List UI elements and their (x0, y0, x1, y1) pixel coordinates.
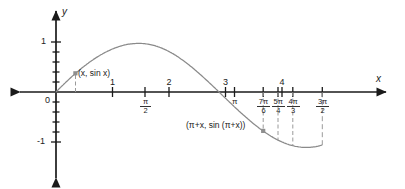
marker-lower-point (261, 129, 265, 133)
denominator-7pi-over-6: 6 (257, 107, 270, 115)
x-tick-label-2: 2 (167, 78, 172, 87)
denominator-3pi-over-2: 2 (316, 107, 329, 115)
x-tick-label-4pi-over-3: 4π 3 (287, 98, 300, 115)
x-tick-label-5pi-over-4: 5π 4 (272, 98, 285, 115)
origin-label: 0 (45, 96, 50, 105)
marker-upper-point (73, 71, 77, 75)
sine-curve-figure: y x 0 1 -1 1 2 3 4 π 2 π 7π 6 5π 4 4π 3 … (0, 0, 405, 189)
x-axis-label: x (376, 74, 381, 84)
y-tick-label-1: 1 (41, 37, 46, 46)
annotation-upper-point: (x, sin x) (78, 68, 110, 78)
x-tick-label-pi: π (232, 98, 238, 106)
x-tick-label-pi-over-2: π 2 (140, 98, 151, 115)
y-axis-label: y (62, 7, 67, 17)
x-tick-label-4: 4 (280, 78, 285, 87)
x-tick-label-7pi-over-6: 7π 6 (257, 98, 270, 115)
plot-canvas (0, 0, 405, 189)
x-tick-label-1: 1 (110, 78, 115, 87)
y-tick-label-neg1: -1 (37, 137, 45, 146)
x-tick-label-3pi-over-2: 3π 2 (316, 98, 329, 115)
annotation-lower-point: (π+x, sin (π+x)) (186, 120, 245, 130)
denominator-4pi-over-3: 3 (287, 107, 300, 115)
denominator-pi-over-2: 2 (140, 107, 151, 115)
x-tick-label-3: 3 (223, 78, 228, 87)
denominator-5pi-over-4: 4 (272, 107, 285, 115)
